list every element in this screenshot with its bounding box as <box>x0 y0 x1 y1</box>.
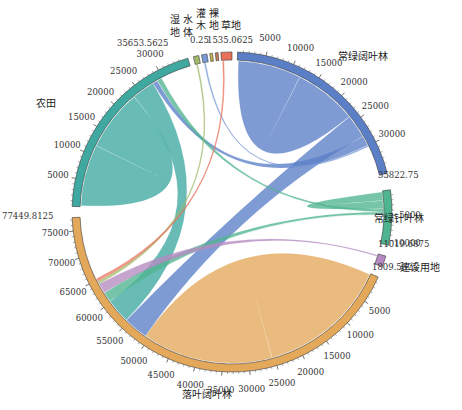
chord-diagram: 5000100001500020000250003000050001000050… <box>0 0 462 410</box>
label-wetland-2: 地 <box>170 26 180 38</box>
label-shrub-2: 木 <box>196 20 206 31</box>
label-water-1: 水 <box>183 14 193 25</box>
chord-ribbon <box>307 192 383 209</box>
tick-label: 70000 <box>48 258 75 268</box>
tick-label: 25000 <box>362 101 389 111</box>
value-construction: 1809.5625 <box>372 262 418 272</box>
tick-label: 30000 <box>238 384 265 394</box>
tick-label: 10000 <box>347 330 374 340</box>
tick-label: 10000 <box>54 140 81 150</box>
tick-label: 75000 <box>42 228 69 238</box>
tick-label: 30000 <box>378 129 405 139</box>
tick-label: 15000 <box>324 351 351 361</box>
label-grass: 草地 <box>221 19 241 31</box>
label-evergreen-broadleaf: 常绿阔叶林 <box>338 50 388 62</box>
tick-label: 10000 <box>287 43 314 53</box>
value-grass: 1535.0625 <box>207 35 253 45</box>
tick-label: 65000 <box>60 287 87 297</box>
label-bare-2: 地 <box>209 19 219 31</box>
segment-arc <box>210 53 214 61</box>
segment-arc <box>215 53 218 61</box>
chord-svg: 5000100001500020000250003000050001000050… <box>0 0 462 410</box>
tick-label: 60000 <box>76 313 103 323</box>
label-evergreen-needle: 常绿针叶林 <box>374 212 424 224</box>
tick-label: 20000 <box>341 77 368 87</box>
value-farmland: 35653.5625 <box>117 38 168 48</box>
tick-label: 55000 <box>96 336 123 346</box>
label-shrub-1: 灌 <box>196 8 206 19</box>
value-evergreen-needle: 11019.6875 <box>378 239 429 249</box>
tick-label: 20000 <box>297 367 324 377</box>
tick-label: 50000 <box>120 356 147 366</box>
label-deciduous-broadleaf: 落叶阔叶林 <box>182 388 232 400</box>
tick-label: 15000 <box>68 112 95 122</box>
value-evergreen-broadleaf: 35822.75 <box>378 170 419 180</box>
segment-arc <box>201 54 208 63</box>
tick-label: 20000 <box>87 87 114 97</box>
value-deciduous-broadleaf: 77449.8125 <box>2 211 53 221</box>
chord-ribbons <box>81 61 383 363</box>
tick-label: 30000 <box>137 49 164 59</box>
segment-arc <box>221 52 232 60</box>
tick-label: 25000 <box>110 66 137 76</box>
label-bare-1: 裸 <box>209 7 219 19</box>
tick-label: 45000 <box>148 370 175 380</box>
segment-arc <box>193 55 200 64</box>
tick-label: 25000 <box>268 378 295 388</box>
tick-label: 5000 <box>259 33 281 43</box>
label-farmland: 农田 <box>36 97 56 109</box>
label-wetland-1: 湿 <box>170 14 180 25</box>
tick-label: 5000 <box>369 306 391 316</box>
tick-label: 5000 <box>47 170 69 180</box>
